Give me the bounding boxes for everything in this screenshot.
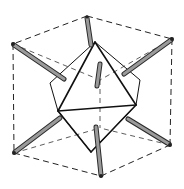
octahedron-edge-bottom-left	[58, 111, 91, 152]
corner-dot-top-left	[11, 42, 15, 46]
cube-edge-bottom-right	[101, 145, 170, 176]
cube-edge-top-right	[87, 16, 172, 39]
rod-upper-right	[124, 40, 171, 74]
octahedron-edge-equator	[58, 105, 136, 111]
cube-edge-top-left	[13, 16, 87, 44]
rod-top	[87, 18, 91, 45]
corner-dot-bottom-front	[99, 174, 103, 178]
corner-dot-bottom-right	[168, 143, 172, 147]
corner-dot-top-right	[170, 37, 174, 41]
rod-lower-left	[15, 118, 60, 152]
rod-bottom	[96, 127, 101, 175]
rod-lower-right	[128, 119, 169, 144]
cube-edge-right-vertical	[170, 39, 172, 145]
cube-edge-bottom-left	[14, 153, 101, 176]
corner-dot-bottom-left	[12, 151, 16, 155]
cube-octahedron-diagram	[0, 0, 184, 189]
cube-edge-left-vertical	[13, 44, 14, 153]
rods-back	[97, 64, 100, 86]
corner-dot-top-back	[86, 16, 89, 19]
rod-center	[97, 64, 100, 86]
